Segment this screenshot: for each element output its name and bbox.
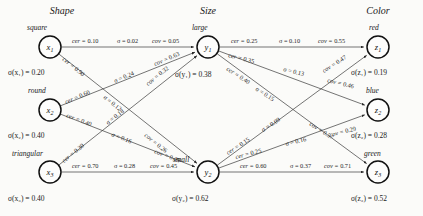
value-name-z1: red <box>369 23 379 32</box>
edge-label-x1-y1-cer: cer = 0.10 <box>72 37 98 44</box>
edge-label-y1-z2-cov: cov = 0.46 <box>327 76 355 89</box>
value-name-y2: small <box>173 155 189 164</box>
sigma-z3: σ(z₃) = 0.52 <box>351 194 387 203</box>
group-title-size: Size <box>200 5 217 16</box>
diagram-canvas: x1x2x3y1y2z1z2z3 cer = 0.10σ = 0.02cov =… <box>0 0 423 216</box>
edge-label-x2-y2-sigma: σ = 0.16 <box>111 130 133 144</box>
edge-label-x2-y1-cov: cov = 0.63 <box>153 50 181 67</box>
edge-label-x3-y2-sigma: σ = 0.28 <box>114 162 135 169</box>
edge-label-y2-z1-sigma: σ = 0.09 <box>260 115 282 132</box>
edge-label-x3-y2-cer: cer = 0.70 <box>72 162 98 169</box>
edge-label-x1-y2-cer: cer = 0.90 <box>61 55 86 77</box>
value-name-x3: triangular <box>12 149 43 158</box>
edge-label-y2-z3-sigma: σ = 0.37 <box>290 162 311 169</box>
sigma-x2: σ(x₂) = 0.40 <box>8 131 45 140</box>
sigma-x1: σ(x₁) = 0.20 <box>8 68 45 77</box>
group-title-color: Color <box>366 5 389 16</box>
value-name-y1: large <box>192 23 208 32</box>
edge-label-y1-z1-sigma: σ = 0.10 <box>279 37 300 44</box>
edge-label-x2-y1-sigma: σ = 0.24 <box>113 69 136 84</box>
edge-label-x1-y1-cov: cov = 0.05 <box>152 37 179 44</box>
edge-label-y2-z3-cer: cer = 0.60 <box>240 162 266 169</box>
value-name-z2: blue <box>366 86 380 95</box>
group-title-shape: Shape <box>50 5 75 16</box>
edge-label-y1-z1-cov: cov = 0.55 <box>318 37 345 44</box>
edge-label-x2-y1-cer: cer = 0.60 <box>64 88 91 105</box>
edge-label-x2-y2-cer: cer = 0.40 <box>66 111 93 127</box>
edge-label-y2-z2-sigma: σ = 0.16 <box>285 135 307 147</box>
edge-label-y2-z1-cov: cov = 0.47 <box>321 53 348 74</box>
value-name-z3: green <box>364 149 381 158</box>
edge-label-y1-z3-cer: cer = 0.40 <box>225 65 251 85</box>
edge-label-y1-z3-sigma: σ = 0.15 <box>254 85 276 102</box>
edge-label-y1-z2-cer: cer = 0.35 <box>228 51 255 64</box>
sigma-y1: σ(y₁) = 0.38 <box>175 70 212 79</box>
edge-label-x1-y1-sigma: σ = 0.02 <box>117 37 138 44</box>
sigma-y2: σ(y₂) = 0.62 <box>172 194 209 203</box>
sigma-z2: σ(z₂) = 0.28 <box>351 131 387 140</box>
value-name-x1: square <box>27 23 48 32</box>
edges-layer <box>59 47 367 172</box>
sigma-x3: σ(x₃) = 0.40 <box>8 194 45 203</box>
network-diagram: x1x2x3y1y2z1z2z3 cer = 0.10σ = 0.02cov =… <box>0 0 423 216</box>
edge-label-y1-z2-sigma: σ = 0.13 <box>283 65 305 77</box>
sigma-z1: σ(z₁) = 0.19 <box>351 68 387 77</box>
edge-label-x3-y1-sigma: σ = 0.18 <box>104 107 125 126</box>
edge-label-y1-z1-cer: cer = 0.25 <box>231 37 257 44</box>
edge-label-y2-z3-cov: cov = 0.71 <box>324 162 351 169</box>
value-name-x2: round <box>28 86 46 95</box>
edge-label-x3-y1-cer: cer = 0.30 <box>60 142 85 164</box>
